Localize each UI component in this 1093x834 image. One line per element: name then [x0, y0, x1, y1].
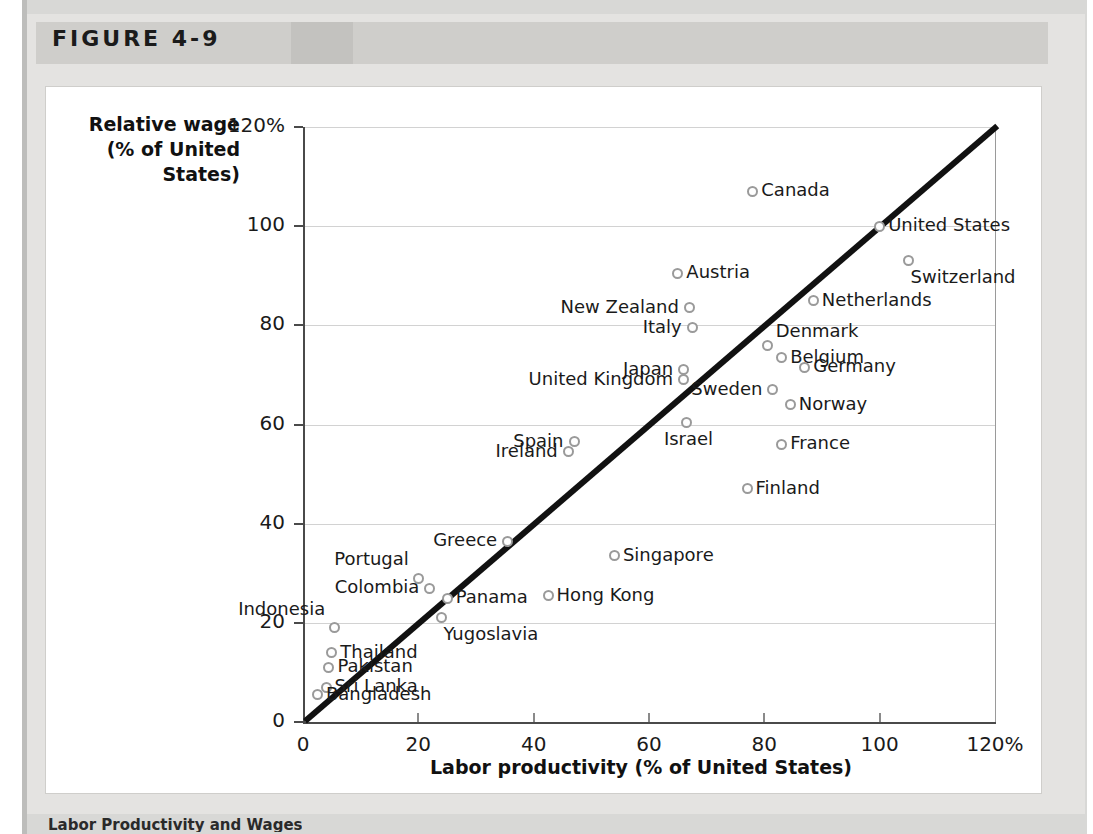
x-axis-title: Labor productivity (% of United States) [430, 756, 852, 778]
figure-caption: Labor Productivity and Wages [48, 816, 302, 832]
figure-page: FIGURE 4-9 Relative wage (% of United St… [0, 0, 1093, 834]
figure-label: FIGURE 4-9 [52, 26, 221, 51]
page-left-gutter [0, 0, 22, 834]
page-right-gutter [1087, 0, 1093, 834]
figure-header-tone-block [291, 22, 353, 64]
y-axis-title: Relative wage (% of United States) [60, 112, 240, 187]
chart-card [45, 86, 1042, 794]
